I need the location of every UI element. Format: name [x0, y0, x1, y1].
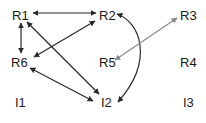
node-i3: I3	[183, 95, 194, 110]
node-r3: R3	[180, 8, 197, 23]
edge-r6-i2	[30, 68, 93, 101]
edge-r2-i2-curved	[117, 14, 140, 102]
edge-r3-r5	[115, 18, 177, 60]
node-r4: R4	[180, 55, 197, 70]
node-r2: R2	[99, 8, 116, 23]
node-i2: I2	[101, 95, 112, 110]
node-r1: R1	[12, 8, 29, 23]
node-r5: R5	[99, 55, 116, 70]
network-diagram: R1 R2 R3 R6 R5 R4 I1 I2 I3	[0, 0, 206, 123]
node-r6: R6	[11, 55, 28, 70]
edge-r6-r2	[34, 21, 95, 57]
node-i1: I1	[15, 95, 26, 110]
edge-r1-i2	[27, 22, 99, 94]
